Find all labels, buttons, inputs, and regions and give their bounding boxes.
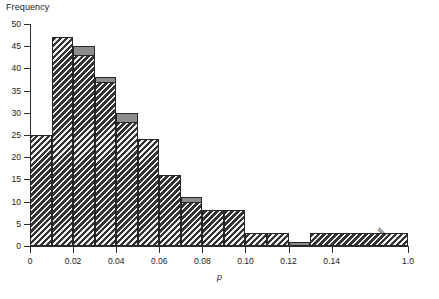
plot-area	[30, 24, 408, 246]
y-tick-label: 25	[0, 130, 21, 140]
histogram-bar-hatched	[310, 233, 408, 246]
x-tick-mark	[30, 247, 31, 253]
x-tick-label: 0.04	[96, 256, 136, 266]
x-tick-mark	[73, 247, 74, 253]
histogram-bar-hatched	[52, 37, 74, 246]
histogram-bar-hatched	[73, 55, 95, 246]
y-tick-label: 50	[0, 19, 21, 29]
y-tick-label: 5	[0, 219, 21, 229]
y-axis-label: Frequency	[6, 2, 49, 12]
histogram-bar-hatched	[202, 210, 224, 246]
histogram-bar-hatched	[267, 233, 289, 246]
x-tick-mark	[332, 247, 333, 253]
y-tick-label: 0	[0, 241, 21, 251]
x-axis-label: p	[0, 272, 439, 282]
x-tick-label: 0.10	[225, 256, 265, 266]
histogram-bar-hatched	[30, 135, 52, 246]
histogram-bar-hatched	[159, 175, 181, 246]
histogram-bar-hatched	[245, 233, 267, 246]
x-tick-label: 1.0	[388, 256, 428, 266]
x-axis-line	[30, 246, 409, 247]
x-tick-label: 0.02	[53, 256, 93, 266]
y-tick-label: 40	[0, 63, 21, 73]
x-tick-mark	[245, 247, 246, 253]
y-tick-label: 35	[0, 86, 21, 96]
x-tick-label: 0	[10, 256, 50, 266]
y-tick-label: 15	[0, 174, 21, 184]
x-tick-mark	[408, 247, 409, 253]
histogram-bar-hatched	[224, 210, 246, 246]
x-tick-mark	[159, 247, 160, 253]
x-tick-mark	[116, 247, 117, 253]
x-tick-label: 0.14	[312, 256, 352, 266]
y-tick-label: 45	[0, 41, 21, 51]
y-tick-label: 30	[0, 108, 21, 118]
x-tick-label: 0.06	[139, 256, 179, 266]
histogram-bar-hatched	[95, 82, 117, 246]
x-tick-label: 0.12	[269, 256, 309, 266]
histogram-bar-hatched	[116, 122, 138, 246]
histogram-figure: Frequency 05101520253035404550 00.020.04…	[0, 0, 439, 299]
histogram-bar-gray	[289, 242, 311, 246]
y-tick-label: 10	[0, 197, 21, 207]
x-tick-mark	[202, 247, 203, 253]
histogram-bar-hatched	[181, 202, 203, 246]
x-tick-label: 0.08	[182, 256, 222, 266]
x-tick-mark	[289, 247, 290, 253]
histogram-bar-hatched	[138, 139, 160, 246]
y-tick-label: 20	[0, 152, 21, 162]
